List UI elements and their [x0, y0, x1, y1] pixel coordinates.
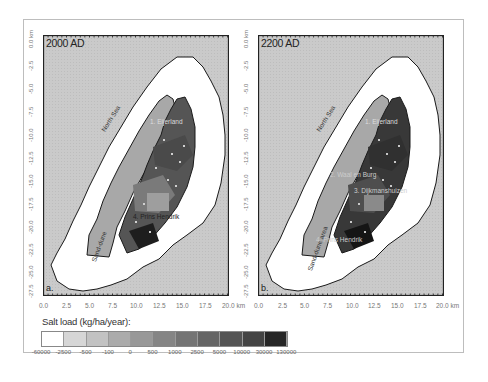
y-tick: -7.5: [243, 107, 249, 117]
map-plot-a: 2000 AD a. North Sea Sand-dune 1. Eijerl…: [43, 35, 229, 296]
legend-label: 0: [129, 349, 132, 355]
legend-color-bar: [41, 331, 288, 347]
y-tick: -10.0: [243, 128, 249, 142]
y-tick: -5.0: [28, 84, 34, 94]
legend-swatch: [109, 332, 131, 346]
y-tick: -15.0: [28, 174, 34, 188]
legend-label: 10000: [233, 349, 250, 355]
y-tick: -22.5: [243, 243, 249, 257]
map-graphic-a: [43, 35, 229, 296]
legend-label: 30000: [256, 349, 273, 355]
y-tick: 0.0 km: [243, 30, 249, 48]
x-tick: 7.5: [323, 302, 332, 309]
legend-swatch: [131, 332, 153, 346]
y-tick: -25.0: [28, 265, 34, 279]
x-tick: 15.0: [391, 302, 404, 309]
y-tick: -17.5: [28, 197, 34, 211]
y-tick: -15.0: [243, 174, 249, 188]
y-tick: -12.5: [243, 151, 249, 165]
legend-label: 1000: [168, 349, 181, 355]
y-tick: -22.5: [28, 243, 34, 257]
region-label-waal-en-burg: 2. Waal en Burg: [330, 171, 376, 178]
legend-label: 500: [147, 349, 157, 355]
y-tick: -27.5: [243, 284, 249, 298]
y-tick: -20.0: [243, 220, 249, 234]
x-tick: 7.5: [108, 302, 117, 309]
x-tick: 0.0: [39, 302, 48, 309]
region-label-dijkmanshuizen: 3. Dijkmanshuizen: [354, 187, 407, 194]
legend-label: -2500: [56, 349, 71, 355]
y-tick: -17.5: [243, 197, 249, 211]
legend-swatch: [220, 332, 242, 346]
legend-swatch: [243, 332, 265, 346]
legend-swatch: [42, 332, 64, 346]
x-tick: 12.5: [368, 302, 381, 309]
y-tick: -5.0: [243, 84, 249, 94]
legend-label: -500: [80, 349, 92, 355]
y-tick: -10.0: [28, 128, 34, 142]
y-tick: -12.5: [28, 151, 34, 165]
y-tick: 0.0 km: [28, 30, 34, 48]
legend-label: -100: [102, 349, 114, 355]
legend-label: 130000: [276, 349, 296, 355]
legend-swatch: [176, 332, 198, 346]
legend-label: 2500: [190, 349, 203, 355]
region-label-prins-hendrik: 4. Prins Hendrik: [316, 236, 362, 243]
legend-swatch: [153, 332, 175, 346]
region-label-eijerland: 1. Eijerland: [150, 118, 183, 125]
y-tick: -20.0: [28, 220, 34, 234]
x-tick: 10.0: [130, 302, 143, 309]
map-plot-b: 2200 AD b. North Sea Sand-dune area 1. E…: [258, 35, 444, 296]
x-tick: 17.5: [199, 302, 212, 309]
panel-title: 2200 AD: [261, 37, 299, 49]
region-label-prins-hendrik: 4. Prins Hendrik: [133, 213, 179, 220]
x-tick: 2.5: [62, 302, 71, 309]
legend-swatch: [64, 332, 86, 346]
panel-letter: a.: [46, 283, 54, 293]
x-tick: 5.0: [85, 302, 94, 309]
x-tick: 2.5: [278, 302, 287, 309]
x-tick: 12.5: [153, 302, 166, 309]
legend-swatch: [87, 332, 109, 346]
x-tick: 5.0: [300, 302, 309, 309]
legend-title: Salt load (kg/ha/year):: [42, 316, 130, 327]
map-graphic-b: [258, 35, 444, 296]
y-tick: -2.5: [28, 61, 34, 71]
y-tick: -2.5: [243, 61, 249, 71]
panel-title: 2000 AD: [46, 37, 84, 49]
x-tick: 10.0: [346, 302, 359, 309]
x-tick: 0.0: [254, 302, 263, 309]
region-label-eijerland: 1. Eijerland: [365, 118, 398, 125]
panel-letter: b.: [261, 283, 269, 293]
legend-swatch: [265, 332, 287, 346]
legend-swatch: [198, 332, 220, 346]
x-tick: 20.0 km: [222, 302, 245, 309]
y-tick: -25.0: [243, 265, 249, 279]
legend-label: 5000: [213, 349, 226, 355]
x-tick: 20.0 km: [436, 302, 459, 309]
legend-label: -60000: [32, 349, 51, 355]
y-tick: -27.5: [28, 284, 34, 298]
x-tick: 15.0: [176, 302, 189, 309]
y-tick: -7.5: [28, 107, 34, 117]
x-tick: 17.5: [414, 302, 427, 309]
